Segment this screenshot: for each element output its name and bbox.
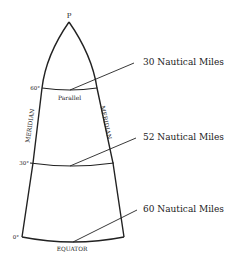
- parallel-60-line: [42, 88, 97, 90]
- lat-30-label: 30°: [19, 160, 29, 166]
- lat-60-label: 60°: [30, 85, 40, 91]
- callout-60nm: 60 Nautical Miles: [143, 204, 224, 214]
- equator-label: EQUATOR: [57, 246, 88, 252]
- callout-52nm: 52 Nautical Miles: [143, 132, 224, 142]
- parallel-label: Parallel: [58, 94, 81, 101]
- meridian-convergence-diagram: P 60° 30° 0° Parallel MERIDIAN MERIDIAN …: [0, 0, 233, 261]
- lat-0-label: 0°: [13, 234, 19, 240]
- pole-label: P: [67, 12, 72, 20]
- meridian-right-label: MERIDIAN: [99, 105, 113, 140]
- right-meridian-line: [69, 22, 124, 237]
- leader-30nm: [70, 63, 134, 90]
- leader-60nm: [73, 210, 137, 242]
- meridian-left-label: MERIDIAN: [24, 108, 36, 143]
- leader-52nm: [70, 138, 136, 166]
- callout-30nm: 30 Nautical Miles: [143, 57, 224, 67]
- equator-line: [22, 237, 124, 242]
